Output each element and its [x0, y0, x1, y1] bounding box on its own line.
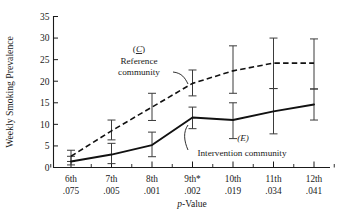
- annotation-int-label: Intervention community: [197, 148, 286, 158]
- figure-container: 05101520253035 6th.0757th.0058th.0019th*…: [0, 0, 338, 222]
- y-tick-label: 20: [40, 77, 50, 87]
- y-tick-labels: 05101520253035: [40, 12, 50, 173]
- x-tick-sublabel: .005: [103, 186, 120, 196]
- svg-text:(C): (C): [133, 44, 145, 54]
- annotation-ref-leader-line: [173, 72, 188, 84]
- x-tick-sublabel: .001: [144, 186, 161, 196]
- y-tick-label: 25: [40, 55, 50, 65]
- annotation-ref-line2: community: [118, 67, 160, 77]
- x-tick-labels: 6th.0757th.0058th.0019th*.00210th.01911t…: [63, 174, 323, 196]
- x-tick-label: 12th: [306, 174, 323, 184]
- x-tick-sublabel: .002: [184, 186, 201, 196]
- x-tick-label: 7th: [106, 174, 118, 184]
- y-tick-marks: [54, 17, 59, 168]
- annotation-ref-line1: Reference: [120, 56, 157, 66]
- x-tick-label: 9th*: [184, 174, 201, 184]
- x-tick-sublabel: .034: [265, 186, 282, 196]
- y-tick-label: 35: [40, 12, 50, 22]
- annotation-int-leader-line: [185, 125, 188, 150]
- x-tick-sublabel: .019: [225, 186, 242, 196]
- y-tick-label: 5: [45, 141, 50, 151]
- line-chart: 05101520253035 6th.0757th.0058th.0019th*…: [0, 0, 338, 222]
- annotation-intervention: (E) Intervention community: [185, 125, 287, 158]
- y-tick-label: 10: [40, 120, 50, 130]
- x-axis-title: p-Value: [176, 199, 207, 209]
- annotation-reference: (C) Reference community: [118, 44, 188, 84]
- y-axis-title: Weekly Smoking Prevalence: [4, 36, 15, 148]
- x-tick-label: 6th: [65, 174, 77, 184]
- annotation-ref-key-close: ): [142, 44, 145, 54]
- y-tick-label: 15: [40, 98, 50, 108]
- x-tick-sublabel: .041: [306, 186, 323, 196]
- x-tick-label: 10th: [225, 174, 242, 184]
- x-axis-title-rest: -Value: [182, 199, 207, 209]
- annotation-int-key: (E): [237, 133, 249, 143]
- x-tick-marks: [71, 162, 314, 168]
- x-tick-label: 11th: [265, 174, 282, 184]
- y-tick-label: 0: [45, 163, 50, 173]
- error-bars-reference: [67, 38, 318, 161]
- x-tick-sublabel: .075: [63, 186, 80, 196]
- y-tick-label: 30: [40, 33, 50, 43]
- x-tick-label: 8th: [146, 174, 158, 184]
